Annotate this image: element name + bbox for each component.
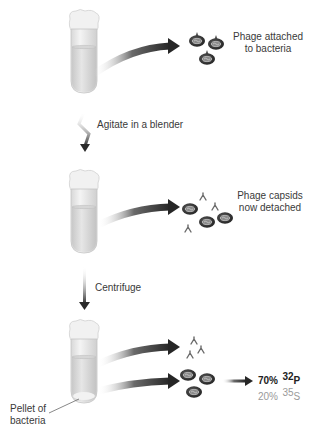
detached-capsids-bacteria-icon (182, 193, 233, 232)
arrow-supernatant (98, 339, 180, 364)
test-tube-1 (69, 10, 99, 94)
test-tube-2 (69, 170, 99, 254)
arrow-to-detached (98, 199, 180, 225)
centrifuge-label: Centrifuge (95, 282, 141, 294)
pellet (73, 392, 95, 400)
phage-attached-label: Phage attached to bacteria (232, 31, 304, 55)
centrifuge-arrow (79, 266, 90, 310)
phage-capsids-detached-label: Phage capsids now detached (236, 190, 304, 214)
blender-zigzag-arrow (79, 112, 90, 152)
s35-result: 20% 35S (258, 386, 300, 404)
supernatant-capsids-icon (187, 337, 204, 358)
bacteria-with-phage-icon (189, 32, 224, 65)
arrow-pellet (98, 373, 180, 391)
arrow-to-results (222, 376, 253, 386)
test-tube-3 (69, 320, 99, 404)
agitate-blender-label: Agitate in a blender (97, 119, 183, 131)
pellet-of-bacteria-label: Pellet of bacteria (10, 403, 46, 427)
pellet-leader-line (49, 399, 79, 413)
pellet-bacteria-icon (180, 369, 215, 398)
arrow-to-attached (94, 38, 180, 74)
